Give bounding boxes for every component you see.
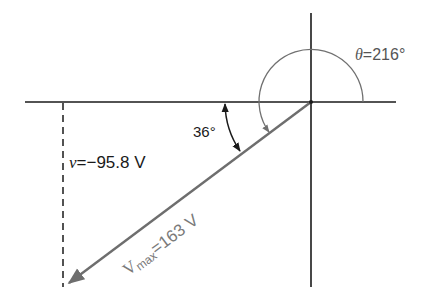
reference-angle-arc [225,104,240,151]
vmax-label: Vmax=163 V [119,210,204,281]
phasor-vector [69,102,311,283]
reference-angle-label: 36° [193,123,216,140]
origin-point [309,100,313,104]
vmax-label-group: Vmax=163 V [119,210,204,281]
phasor-diagram-canvas: θ=216° 36° v=−95.8 V Vmax=163 V [0,0,430,301]
instantaneous-voltage-label: v=−95.8 V [69,153,146,172]
theta-label: θ=216° [355,46,405,63]
phasor-diagram: θ=216° 36° v=−95.8 V Vmax=163 V [0,0,430,301]
